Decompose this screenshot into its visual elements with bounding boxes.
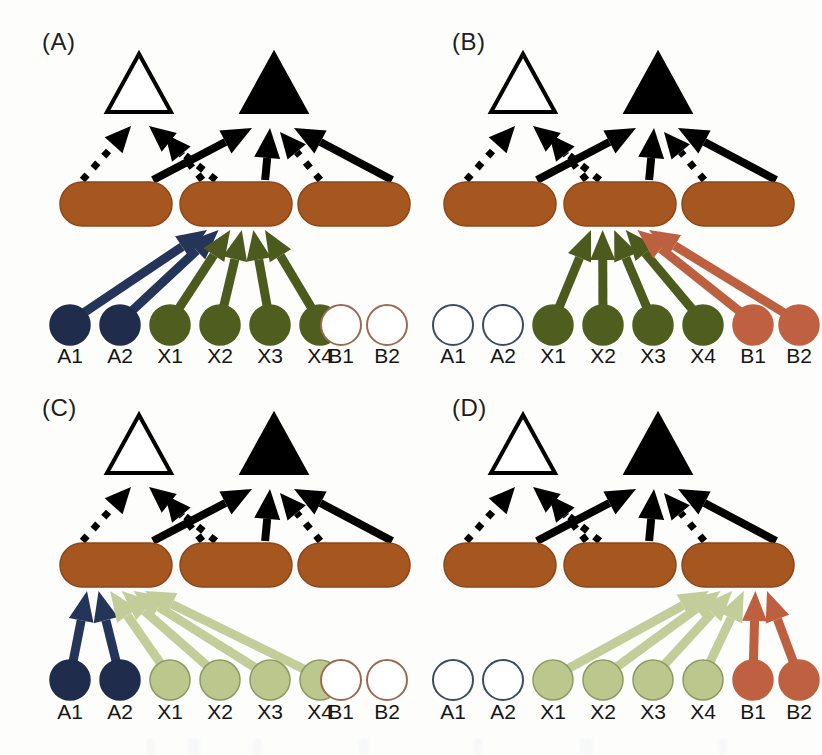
dotted-edge-white-0-head (105, 126, 131, 153)
module-pill-2[interactable] (180, 182, 292, 226)
solid-edge-black-2-shaft (319, 500, 394, 545)
panel-A-triangles (107, 54, 306, 112)
node-label-x2: X2 (197, 700, 243, 724)
edge-from-x4-shaft (170, 600, 322, 681)
node-label-a1: A1 (430, 344, 476, 368)
panel-A-upper-edges (82, 126, 394, 184)
panel-D-nodes (433, 660, 819, 700)
node-label-a2: A2 (97, 344, 143, 368)
module-pill-1[interactable] (60, 543, 172, 587)
panel-B-nodes (433, 305, 819, 345)
node-label-b2: B2 (364, 344, 410, 368)
white-triangle-outcome[interactable] (491, 415, 555, 473)
black-triangle-outcome[interactable] (242, 54, 306, 112)
node-label-x2: X2 (197, 344, 243, 368)
node-a2[interactable] (483, 660, 523, 700)
white-triangle-outcome[interactable] (107, 415, 171, 473)
node-label-x2: X2 (580, 700, 626, 724)
panel-A: (A) A1 A2 X1 X2 X3 X4 B1 B2 (0, 0, 410, 380)
caption-scan-artifact (0, 739, 817, 755)
node-b2[interactable] (779, 660, 819, 700)
dotted-edge-white-0-shaft (466, 145, 497, 180)
black-triangle-outcome[interactable] (626, 415, 690, 473)
node-a1[interactable] (433, 660, 473, 700)
node-b2[interactable] (367, 305, 407, 345)
node-a1[interactable] (50, 305, 90, 345)
node-label-a1: A1 (47, 344, 93, 368)
module-pill-2[interactable] (180, 543, 292, 587)
node-a1[interactable] (50, 660, 90, 700)
node-x1[interactable] (533, 305, 573, 345)
node-b1[interactable] (733, 305, 773, 345)
panel-A-pills (60, 182, 410, 226)
node-a1[interactable] (433, 305, 473, 345)
white-triangle-outcome[interactable] (491, 54, 555, 112)
node-x2[interactable] (200, 305, 240, 345)
node-x2[interactable] (200, 660, 240, 700)
node-label-b2: B2 (776, 344, 822, 368)
edge-from-b2-head (766, 591, 789, 623)
node-a2[interactable] (483, 305, 523, 345)
panel-A-nodes (50, 305, 407, 345)
edge-from-b1-head (742, 591, 767, 621)
black-triangle-outcome[interactable] (626, 54, 690, 112)
node-a2[interactable] (100, 660, 140, 700)
node-label-b1: B1 (730, 700, 776, 724)
node-x3[interactable] (633, 305, 673, 345)
node-x2[interactable] (583, 305, 623, 345)
node-label-x4: X4 (680, 344, 726, 368)
module-pill-1[interactable] (444, 543, 556, 587)
panel-B-upper-edges (466, 126, 778, 184)
module-pill-3[interactable] (682, 543, 794, 587)
module-pill-3[interactable] (298, 543, 410, 587)
node-x1[interactable] (533, 660, 573, 700)
node-a2[interactable] (100, 305, 140, 345)
node-b1[interactable] (733, 660, 773, 700)
node-b1[interactable] (321, 660, 361, 700)
panel-C-triangles (107, 415, 306, 473)
panel-label-C: (C) (42, 394, 77, 422)
node-x2[interactable] (583, 660, 623, 700)
node-x1[interactable] (150, 660, 190, 700)
module-pill-1[interactable] (444, 182, 556, 226)
module-pill-3[interactable] (298, 182, 410, 226)
white-triangle-outcome[interactable] (107, 54, 171, 112)
node-label-a2: A2 (97, 700, 143, 724)
black-triangle-outcome[interactable] (242, 415, 306, 473)
node-label-x4: X4 (680, 700, 726, 724)
node-label-x1: X1 (530, 344, 576, 368)
panel-C-upper-edges (82, 487, 394, 545)
node-label-x1: X1 (147, 344, 193, 368)
node-x4[interactable] (683, 305, 723, 345)
node-b1[interactable] (321, 305, 361, 345)
node-label-b2: B2 (364, 700, 410, 724)
node-label-b1: B1 (730, 344, 776, 368)
node-x3[interactable] (250, 305, 290, 345)
panel-B-triangles (491, 54, 690, 112)
panel-label-D: (D) (452, 394, 487, 422)
panel-C-nodes (50, 660, 407, 700)
dotted-edge-black-0-shaft (681, 513, 705, 541)
solid-edge-black-2-shaft (319, 139, 394, 184)
node-x1[interactable] (150, 305, 190, 345)
node-label-x1: X1 (147, 700, 193, 724)
panel-B-pills (444, 182, 794, 226)
node-x3[interactable] (250, 660, 290, 700)
panel-D-graphic (410, 380, 817, 720)
node-label-a2: A2 (480, 344, 526, 368)
solid-edge-black-1-head (638, 489, 664, 520)
module-pill-3[interactable] (682, 182, 794, 226)
node-b2[interactable] (367, 660, 407, 700)
node-label-x3: X3 (247, 700, 293, 724)
node-x3[interactable] (633, 660, 673, 700)
module-pill-2[interactable] (564, 543, 676, 587)
node-b2[interactable] (779, 305, 819, 345)
dotted-edge-white-0-shaft (466, 506, 497, 541)
panel-label-A: (A) (42, 28, 76, 56)
panel-B-graphic (410, 0, 817, 380)
node-x4[interactable] (683, 660, 723, 700)
module-pill-1[interactable] (60, 182, 172, 226)
module-pill-2[interactable] (564, 182, 676, 226)
panel-D-triangles (491, 415, 690, 473)
node-label-x2: X2 (580, 344, 626, 368)
